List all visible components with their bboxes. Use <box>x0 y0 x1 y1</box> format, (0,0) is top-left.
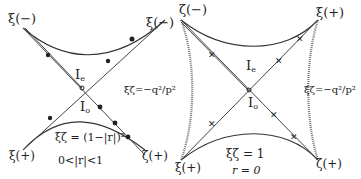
right-side-label-left: ξζ=−q²/p² <box>124 84 176 95</box>
left-region-upper: Ie <box>75 67 85 83</box>
left-curve-label: ξζ = (1−|r|)² <box>55 131 125 145</box>
left-region-lower: Io <box>80 99 90 115</box>
left-label-bottom-right: ζ(+) <box>142 149 168 163</box>
marker: ✕ <box>290 132 298 142</box>
right-condition: r = 0 <box>232 164 260 177</box>
right-label-top-left: ζ(−) <box>179 2 207 17</box>
right-side-label-right: ξζ=−q²/p² <box>304 84 356 95</box>
marker <box>113 121 118 126</box>
left-label-top-left: ξ(−) <box>8 11 36 26</box>
right-left-boundary <box>181 20 192 160</box>
marker <box>130 37 135 42</box>
right-curve-label: ξζ = 1 <box>226 147 264 161</box>
right-label-bottom-left: ξ(+) <box>175 161 201 175</box>
marker <box>98 105 103 110</box>
right-label-bottom-right: ζ(+) <box>316 157 342 171</box>
marker: ✕ <box>208 50 216 60</box>
marker: ✕ <box>275 56 283 66</box>
diagram-canvas: ξ(−) ξ(−) ξ(+) ζ(+) Ie Io ξζ = (1−|r|)² … <box>0 0 361 179</box>
left-label-bottom-left: ξ(+) <box>9 149 35 163</box>
marker: ✕ <box>296 34 304 44</box>
marker <box>126 135 131 140</box>
marker <box>106 59 110 63</box>
marker: ✕ <box>270 110 278 120</box>
marker <box>48 116 52 120</box>
right-label-top-right: ξ(+) <box>316 5 344 20</box>
left-diag-3 <box>25 28 82 88</box>
marker: ✕ <box>208 119 216 129</box>
marker <box>46 53 50 57</box>
right-region-upper: Ie <box>246 58 256 74</box>
left-condition: 0<|r|<1 <box>58 154 103 168</box>
right-markers: ✕ ✕ ✕ ✕ ✕ ✕ <box>208 34 304 142</box>
left-label-top-right: ξ(−) <box>146 15 174 30</box>
